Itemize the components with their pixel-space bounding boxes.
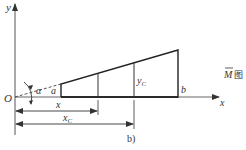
point-b-label: b [181,84,186,95]
y-axis-label: y [5,1,11,13]
origin-label: O [4,92,12,104]
dimension-x-label: x [55,99,61,110]
angle-arc-arrowhead-bottom [29,100,33,105]
moment-diagram: y O x α a b yC x xC M 图 b) [0,0,246,150]
moment-trapezoid [61,50,178,97]
dimension-xc-label: xC [62,112,72,125]
figure-caption: b) [127,133,135,145]
angle-label: α [36,85,42,96]
x-axis-label: x [219,97,225,108]
yc-label: yC [136,75,146,88]
point-a-label: a [51,85,56,96]
diagram-label-symbol: M [223,69,233,80]
diagram-label-suffix: 图 [234,70,243,80]
